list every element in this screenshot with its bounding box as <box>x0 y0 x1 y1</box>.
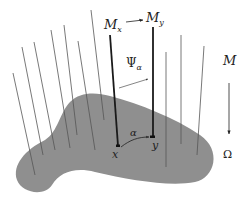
label-point-x: x <box>112 148 119 161</box>
label-fiber-mx: Mx <box>103 17 122 34</box>
fiber-line <box>34 42 55 150</box>
arrow-psi-alpha <box>119 79 148 88</box>
arrow-mx-to-my <box>126 20 143 22</box>
fiber-bundle-diagram: Mx My Ψα α x y M Ω <box>0 0 250 197</box>
point-x-marker <box>116 145 120 148</box>
label-psi-alpha: Ψα <box>126 56 143 72</box>
fiber-line <box>22 47 43 155</box>
label-point-y: y <box>151 139 159 152</box>
point-y-marker <box>150 136 155 139</box>
label-fiber-my: My <box>145 10 164 27</box>
label-base-space: Ω <box>223 148 232 161</box>
label-total-space: M <box>222 53 237 68</box>
label-path-alpha: α <box>130 127 137 138</box>
